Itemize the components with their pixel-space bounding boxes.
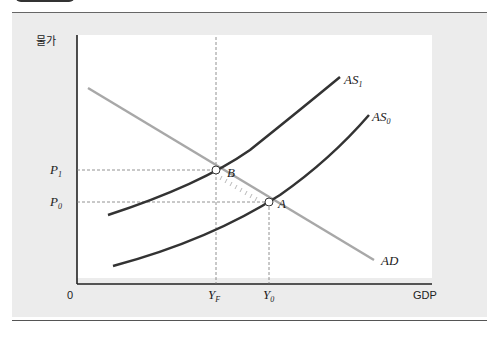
as-ad-diagram: 물가 GDP 0 AS1 AS0 AD B A P1 P0 YF Y0	[0, 0, 498, 337]
point-b-label: B	[227, 165, 235, 180]
point-a-label: A	[277, 196, 286, 211]
point-b-marker	[212, 166, 220, 174]
origin-label: 0	[67, 289, 73, 301]
p1-label: P1	[49, 162, 62, 179]
x-axis-label: GDP	[413, 289, 437, 301]
yf-label: YF	[208, 287, 220, 304]
p0-label: P0	[49, 194, 62, 211]
point-a-marker	[265, 198, 273, 206]
ad-label: AD	[380, 253, 399, 268]
plot-area	[77, 35, 432, 278]
y-axis-label: 물가	[36, 35, 56, 47]
y0-label: Y0	[263, 287, 274, 304]
